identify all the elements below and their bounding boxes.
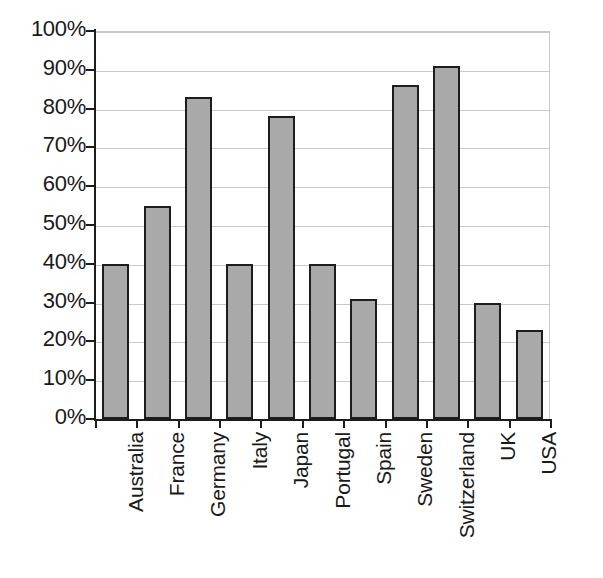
- y-axis-tick-label: 30%: [43, 290, 86, 312]
- x-axis-category-label: Sweden: [414, 432, 435, 507]
- y-axis-tick-mark: [86, 69, 95, 71]
- y-axis-tick-mark: [86, 340, 95, 342]
- y-axis-tick-label: 40%: [43, 251, 86, 273]
- x-axis-tick-mark: [219, 419, 221, 428]
- bar: [226, 264, 253, 419]
- bar: [474, 303, 501, 419]
- x-axis-tick-mark: [302, 419, 304, 428]
- x-axis-category-label: UK: [497, 432, 518, 461]
- gridline: [95, 71, 549, 72]
- x-axis-category-label: France: [166, 432, 187, 496]
- bar: [309, 264, 336, 419]
- x-axis-tick-mark: [509, 419, 511, 428]
- y-axis-tick-label: 10%: [43, 367, 86, 389]
- x-axis-category-label: Spain: [373, 432, 394, 485]
- bar: [144, 206, 171, 419]
- y-axis-tick-mark: [86, 302, 95, 304]
- x-axis-category-label: Australia: [125, 432, 146, 512]
- y-axis-tick-label: 90%: [43, 57, 86, 79]
- bar-chart: 0%10%20%30%40%50%60%70%80%90%100% Austra…: [0, 0, 603, 578]
- x-axis-category-label: Germany: [207, 432, 228, 517]
- x-axis-tick-mark: [260, 419, 262, 428]
- y-axis-tick-label: 50%: [43, 212, 86, 234]
- y-axis-tick-labels: 0%10%20%30%40%50%60%70%80%90%100%: [0, 0, 90, 578]
- x-axis-tick-mark: [136, 419, 138, 428]
- bar: [392, 85, 419, 419]
- x-axis-tick-mark: [550, 419, 552, 428]
- x-axis-category-label: Portugal: [332, 432, 353, 509]
- bar: [102, 264, 129, 419]
- x-axis-tick-mark: [95, 419, 97, 428]
- bar: [433, 66, 460, 419]
- y-axis-tick-label: 60%: [43, 173, 86, 195]
- y-axis-tick-label: 70%: [43, 134, 86, 156]
- x-axis-tick-mark: [467, 419, 469, 428]
- y-axis-tick-mark: [86, 379, 95, 381]
- x-axis-tick-mark: [426, 419, 428, 428]
- x-axis-category-label: Switzerland: [456, 432, 477, 538]
- y-axis-tick-mark: [86, 224, 95, 226]
- x-axis-line: [94, 419, 551, 421]
- gridline: [95, 110, 549, 111]
- x-axis-tick-mark: [385, 419, 387, 428]
- x-axis-tick-mark: [343, 419, 345, 428]
- y-axis-tick-mark: [86, 263, 95, 265]
- x-axis-tick-mark: [178, 419, 180, 428]
- x-axis-category-label: Italy: [249, 432, 270, 470]
- y-axis-tick-label: 0%: [55, 406, 86, 428]
- x-axis-category-label: Japan: [290, 432, 311, 488]
- y-axis-tick-mark: [86, 418, 95, 420]
- x-axis-category-label: USA: [538, 432, 559, 475]
- y-axis-tick-mark: [86, 108, 95, 110]
- y-axis-tick-label: 100%: [31, 18, 86, 40]
- gridline: [95, 187, 549, 188]
- y-axis-tick-mark: [86, 30, 95, 32]
- y-axis-tick-label: 20%: [43, 328, 86, 350]
- bar: [516, 330, 543, 419]
- bar: [350, 299, 377, 419]
- y-axis-tick-mark: [86, 185, 95, 187]
- bar: [185, 97, 212, 419]
- gridline: [95, 148, 549, 149]
- bar: [268, 116, 295, 419]
- y-axis-tick-mark: [86, 146, 95, 148]
- y-axis-tick-label: 80%: [43, 96, 86, 118]
- gridline: [95, 32, 549, 33]
